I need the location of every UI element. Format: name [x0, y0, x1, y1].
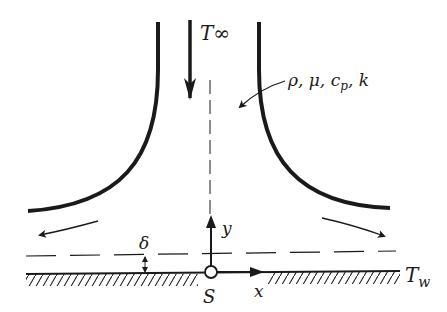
label-x: x	[254, 281, 264, 301]
right-outflow-arrow	[322, 218, 384, 236]
label-t-wall: Tw	[405, 263, 430, 290]
label-delta: δ	[139, 233, 149, 253]
left-streamline	[28, 22, 158, 211]
wall-hatching-right	[268, 272, 400, 284]
left-outflow-arrow	[40, 221, 98, 235]
stagnation-point-marker	[205, 266, 217, 278]
label-t-infinity: T∞	[200, 21, 230, 45]
stagnation-flow-diagram: T∞ ρ, μ, cp, k δ y x S Tw	[0, 0, 447, 312]
label-y: y	[221, 218, 232, 238]
label-s: S	[203, 286, 215, 307]
right-streamline	[259, 22, 390, 208]
wall-hatching	[26, 274, 198, 286]
label-fluid-properties: ρ, μ, cp, k	[287, 70, 369, 93]
